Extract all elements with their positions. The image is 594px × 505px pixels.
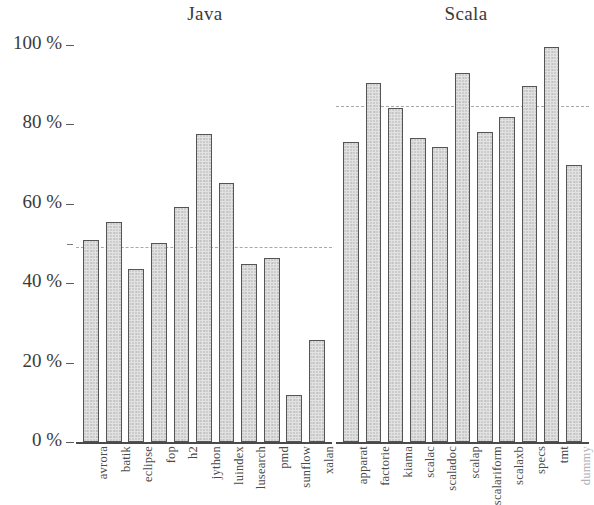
x-tick-label: scaladoc	[445, 446, 460, 491]
x-tick-label: h2	[186, 446, 201, 459]
x-tick-label: lusearch	[254, 446, 269, 489]
bar	[410, 138, 426, 442]
bar	[477, 132, 493, 442]
y-tick-text: 20 %	[0, 350, 62, 372]
plot-panel-scala	[336, 0, 589, 492]
bar-slot	[174, 42, 190, 442]
x-tick-label: luindex	[232, 446, 247, 485]
x-tick-label: pmd	[277, 446, 292, 469]
x-tick-label: fop	[164, 446, 179, 463]
bar-slot	[522, 42, 538, 442]
x-axis-baseline-scala	[336, 442, 589, 444]
bar-slot	[566, 42, 582, 442]
bar-slot	[196, 42, 212, 442]
x-tick-label: eclipse	[141, 446, 156, 482]
y-tick-mark	[66, 45, 74, 46]
bar	[455, 73, 471, 442]
bar-slot	[106, 42, 122, 442]
y-tick-mark	[66, 204, 74, 205]
bar	[309, 340, 325, 442]
x-tick-label: factorie	[378, 446, 393, 486]
y-tick-text: 40 %	[0, 270, 62, 292]
x-tick-label: scalap	[468, 446, 483, 478]
bar	[219, 183, 235, 442]
x-tick-label: xalan	[322, 446, 337, 474]
y-tick-label: 60 %	[0, 191, 62, 213]
bar	[343, 142, 359, 442]
bar-slot	[432, 42, 448, 442]
x-tick-label: apparat	[356, 446, 371, 484]
bar	[241, 264, 257, 442]
x-tick-label: jython	[209, 446, 224, 479]
bar-slot	[151, 42, 167, 442]
bar-slot	[343, 42, 359, 442]
bar-slot	[544, 42, 560, 442]
bar	[499, 117, 515, 442]
x-tick-label: scalaxb	[512, 446, 527, 485]
bar	[174, 207, 190, 442]
bar-slot	[128, 42, 144, 442]
x-tick-label: dummy	[579, 446, 594, 485]
y-tick-label: 100 %	[0, 32, 62, 54]
bar-slot	[366, 42, 382, 442]
bar	[83, 240, 99, 442]
x-axis-baseline-java	[76, 442, 332, 444]
y-tick-label: 40 %	[0, 270, 62, 292]
y-tick-label: 20 %	[0, 350, 62, 372]
bar	[286, 395, 302, 442]
bar	[432, 147, 448, 442]
bar	[388, 108, 404, 442]
bar-slot	[219, 42, 235, 442]
y-tick-mark	[66, 283, 74, 284]
bar	[151, 243, 167, 442]
x-tick-label: kiama	[401, 446, 416, 478]
bar	[544, 47, 560, 442]
bar	[366, 83, 382, 442]
y-tick-text: 100 %	[0, 32, 62, 54]
y-tick-label: 80 %	[0, 111, 62, 133]
bar-slot	[309, 42, 325, 442]
x-tick-label: avrora	[96, 446, 111, 479]
y-tick-mark	[66, 442, 74, 443]
bar	[106, 222, 122, 442]
bar	[566, 165, 582, 442]
bar	[128, 269, 144, 442]
bar-slot	[83, 42, 99, 442]
x-tick-label: sunflow	[299, 446, 314, 488]
bar	[264, 258, 280, 442]
y-tick-text: 60 %	[0, 191, 62, 213]
bar	[196, 134, 212, 442]
y-tick-label: 0 %	[0, 429, 62, 451]
bar	[522, 86, 538, 442]
x-tick-label: batik	[119, 446, 134, 472]
bar-slot	[388, 42, 404, 442]
x-tick-label: specs	[534, 446, 549, 474]
x-tick-label: scalac	[423, 446, 438, 478]
bar-slot	[455, 42, 471, 442]
bar-series-java	[76, 42, 332, 442]
bar-series-scala	[336, 42, 589, 442]
bar-slot	[410, 42, 426, 442]
y-tick-mark	[66, 363, 74, 364]
bar-slot	[264, 42, 280, 442]
y-tick-mark	[66, 124, 74, 125]
x-tick-label: tmt	[557, 446, 572, 463]
y-tick-text: 0 %	[0, 429, 62, 451]
y-tick-mark-minor	[67, 244, 73, 245]
bar-slot	[477, 42, 493, 442]
bar-slot	[241, 42, 257, 442]
bar-slot	[499, 42, 515, 442]
bar-slot	[286, 42, 302, 442]
y-tick-text: 80 %	[0, 111, 62, 133]
x-tick-label: scalariform	[490, 446, 505, 505]
plot-panel-java	[76, 0, 332, 492]
